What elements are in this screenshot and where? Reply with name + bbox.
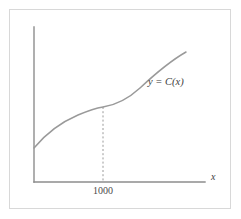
figure-container: 1000 x y = C(x) — [0, 0, 241, 219]
cost-curve — [34, 52, 186, 148]
cost-function-plot: 1000 x y = C(x) — [0, 0, 241, 219]
x-tick-label-1000: 1000 — [93, 185, 113, 196]
x-axis-label: x — [210, 171, 216, 182]
curve-label-annotation: y = C(x) — [147, 76, 184, 88]
